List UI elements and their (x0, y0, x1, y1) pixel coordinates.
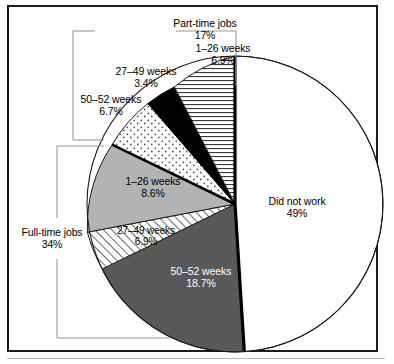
group-label-part-time: Part-time jobs 17% (150, 18, 260, 42)
slice-label-pt-50-52: 50–52 weeks 6.7% (63, 94, 159, 118)
slice-label-ft-50-52: 50–52 weeks 18.7% (147, 266, 255, 290)
slice-label-ft-27-49: 27–49 weeks 6.9% (98, 225, 194, 247)
slice-label-ft-1-26-value: 8.6% (105, 188, 201, 200)
slice-label-did-not-work: Did not work 49% (249, 196, 345, 220)
group-label-full-time-value: 34% (0, 239, 112, 251)
slice-label-ft-1-26: 1–26 weeks 8.6% (105, 176, 201, 200)
slice-label-ft-1-26-name: 1–26 weeks (105, 176, 201, 188)
group-label-part-time-value: 17% (150, 30, 260, 42)
slice-label-pt-1-26-value: 6.9% (178, 55, 268, 67)
slice-label-ft-27-49-value: 6.9% (98, 236, 194, 247)
group-label-part-time-name: Part-time jobs (150, 18, 260, 30)
group-label-full-time: Full-time jobs 34% (0, 227, 112, 251)
slice-label-pt-27-49-value: 3.4% (98, 78, 194, 90)
slice-label-pt-50-52-name: 50–52 weeks (63, 94, 159, 106)
slice-label-pt-50-52-value: 6.7% (63, 106, 159, 118)
slice-label-ft-27-49-name: 27–49 weeks (98, 225, 194, 236)
slice-label-pt-1-26-name: 1–26 weeks (178, 43, 268, 55)
slice-label-pt-1-26: 1–26 weeks 6.9% (178, 43, 268, 67)
slice-label-did-not-work-value: 49% (249, 208, 345, 220)
group-label-full-time-name: Full-time jobs (0, 227, 112, 239)
slice-label-ft-50-52-value: 18.7% (147, 278, 255, 290)
bottom-rule (7, 358, 385, 359)
slice-label-did-not-work-name: Did not work (249, 196, 345, 208)
slice-label-pt-27-49: 27–49 weeks 3.4% (98, 66, 194, 90)
chart-figure: Part-time jobs 17% Full-time jobs 34% 1–… (0, 0, 394, 364)
slice-label-ft-50-52-name: 50–52 weeks (147, 266, 255, 278)
slice-label-pt-27-49-name: 27–49 weeks (98, 66, 194, 78)
